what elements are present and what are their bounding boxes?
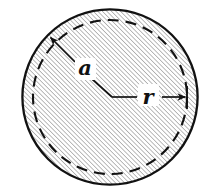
hatched-disk-diagram: a r [0, 0, 221, 196]
radius-a-label: a [78, 55, 92, 80]
figure-container: a r [0, 0, 221, 196]
radius-r-label: r [142, 84, 155, 109]
